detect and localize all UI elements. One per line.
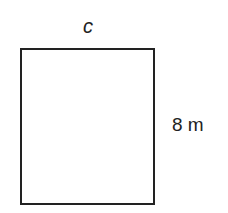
- right-side-label: 8 m: [172, 113, 204, 137]
- rectangle-shape: [20, 48, 155, 205]
- rectangle-diagram: c 8 m: [0, 0, 228, 213]
- top-side-label: c: [78, 14, 98, 38]
